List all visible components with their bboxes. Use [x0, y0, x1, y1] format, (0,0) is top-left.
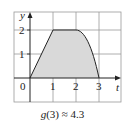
x-tick-3: 3: [96, 80, 102, 92]
x-axis-arrow-icon: [115, 76, 121, 81]
area-under-curve-chart: y t 2 1 0 1 2 3: [0, 0, 125, 108]
y-tick-1: 1: [19, 48, 25, 60]
x-axis-label: t: [116, 81, 120, 93]
y-tick-2: 2: [19, 24, 25, 36]
chart-caption: g(3) ≈ 4.3: [0, 108, 125, 120]
y-axis-label: y: [19, 9, 25, 21]
x-tick-1: 1: [50, 80, 56, 92]
y-axis-arrow-icon: [28, 12, 33, 18]
caption-value: (3) ≈ 4.3: [46, 108, 84, 120]
x-tick-2: 2: [73, 80, 79, 92]
x-tick-0: 0: [20, 80, 26, 92]
